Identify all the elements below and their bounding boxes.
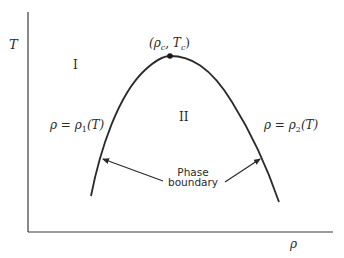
region-1-label: I: [73, 58, 78, 72]
y-axis-label: T: [9, 37, 19, 52]
phase-boundary-annotation-line2: boundary: [168, 176, 218, 188]
right-curve-label: ρ = ρ2(T): [263, 118, 319, 134]
region-2-label: II: [179, 110, 189, 124]
phase-diagram: T ρ (ρc, Tc) I II ρ = ρ1(T) ρ = ρ2(T) Ph…: [0, 0, 344, 258]
left-curve-label: ρ = ρ1(T): [49, 118, 105, 134]
x-axis-label: ρ: [289, 237, 297, 251]
left-annotation-arrow: [103, 159, 163, 181]
critical-point-marker: [167, 53, 173, 59]
right-annotation-arrow: [225, 159, 260, 182]
critical-point-label: (ρc, Tc): [149, 36, 190, 52]
